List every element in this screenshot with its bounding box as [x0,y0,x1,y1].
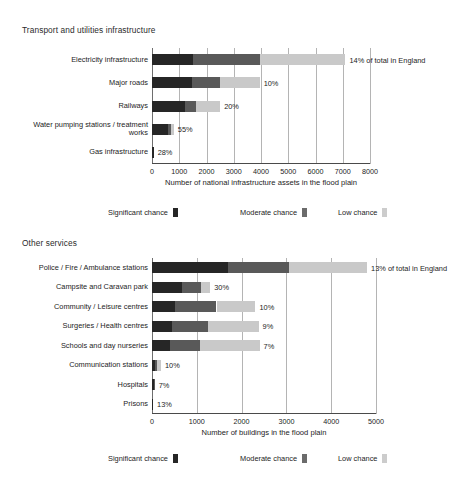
bar-segment-significant[interactable] [152,399,153,410]
x-axis-line [152,413,376,414]
bar-segment-low[interactable] [217,301,256,312]
bar-segment-moderate[interactable] [182,282,201,293]
legend-item[interactable]: Low chance [338,454,387,463]
bar-segment-low[interactable] [157,360,161,371]
bar-segment-moderate[interactable] [170,340,200,351]
bar-row[interactable] [152,77,370,88]
bar-segment-low[interactable] [220,77,260,88]
bar-value-annotation: 30% [214,283,229,292]
bar-segment-low[interactable] [196,101,220,112]
bar-segment-significant[interactable] [152,147,154,158]
category-label: Surgeries / Health centres [18,322,148,331]
legend-item[interactable]: Low chance [338,208,387,217]
plot-area-top [152,48,370,164]
category-label: Police / Fire / Ambulance stations [18,264,148,273]
bar-segment-moderate[interactable] [193,54,260,65]
bar-row[interactable] [152,262,376,273]
category-label: Major roads [18,79,148,88]
bar-segment-moderate[interactable] [228,262,288,273]
bar-segment-low[interactable] [289,262,367,273]
x-axis-line [152,163,370,164]
bar-segment-significant[interactable] [152,321,172,332]
category-label: Schools and day nurseries [18,342,148,351]
bar-segment-significant[interactable] [152,301,175,312]
bar-segment-moderate[interactable] [192,77,221,88]
bar-value-annotation: 9% [263,322,274,331]
other-services-chart-panel: Other services Police / Fire / Ambulance… [0,238,471,497]
legend-bottom: Significant chanceModerate chanceLow cha… [0,454,471,468]
bar-row[interactable] [152,101,370,112]
legend-swatch [382,208,387,217]
category-label: Community / Leisure centres [18,303,148,312]
legend-label: Significant chance [108,208,168,217]
bar-segment-low[interactable] [260,54,346,65]
category-label: Electricity infrastructure [18,56,148,65]
bar-value-annotation: 7% [159,381,170,390]
bar-value-annotation: 10% [165,361,180,370]
legend-swatch [382,454,387,463]
bar-segment-moderate[interactable] [185,101,197,112]
legend-item[interactable]: Significant chance [108,208,178,217]
transport-utilities-chart-panel: Transport and utilities infrastructure E… [0,0,471,240]
legend-swatch [302,454,307,463]
bar-segment-moderate[interactable] [154,379,155,390]
bar-segment-low[interactable] [171,124,174,135]
bar-value-annotation: 10% [259,303,274,312]
plot-area-bottom [152,258,376,414]
bar-segment-significant[interactable] [152,282,182,293]
chart-title-bottom: Other services [22,238,77,248]
category-label: Railways [18,102,148,111]
bar-value-annotation: 10% [264,79,279,88]
bar-row[interactable] [152,379,376,390]
category-label: Gas infrastructure [18,148,148,157]
bar-value-annotation: 20% [224,102,239,111]
legend-swatch [173,454,178,463]
x-tick-label: 3000 [266,417,306,426]
legend-item[interactable]: Significant chance [108,454,178,463]
legend-item[interactable]: Moderate chance [240,454,307,463]
x-tick-label: 0 [132,417,172,426]
category-label: Campsite and Caravan park [18,283,148,292]
legend-swatch [173,208,178,217]
category-label: Water pumping stations / treatment works [18,121,148,138]
bar-segment-moderate[interactable] [175,301,216,312]
bar-value-annotation: 13% [157,400,172,409]
bar-segment-low[interactable] [201,282,210,293]
bar-row[interactable] [152,282,376,293]
bar-segment-significant[interactable] [152,124,168,135]
legend-label: Low chance [338,454,377,463]
bar-segment-moderate[interactable] [172,321,208,332]
bar-value-annotation: 7% [264,342,275,351]
x-tick-label: 8000 [350,167,390,176]
bar-segment-significant[interactable] [152,54,193,65]
x-axis-title-top: Number of national infrastructure assets… [152,178,370,187]
bar-segment-significant[interactable] [152,101,185,112]
legend-label: Significant chance [108,454,168,463]
legend-item[interactable]: Moderate chance [240,208,307,217]
legend-label: Moderate chance [240,208,297,217]
bar-segment-low[interactable] [200,340,259,351]
bar-segment-significant[interactable] [152,77,192,88]
bar-segment-significant[interactable] [152,262,228,273]
category-label: Hospitals [18,381,148,390]
legend-label: Low chance [338,208,377,217]
bar-value-annotation: 13% of total in England [371,264,447,273]
bar-row[interactable] [152,360,376,371]
x-tick-label: 5000 [356,417,396,426]
bar-segment-significant[interactable] [152,340,170,351]
x-tick-label: 4000 [311,417,351,426]
bar-row[interactable] [152,54,370,65]
gridline [376,258,377,414]
gridline [370,48,371,164]
category-label: Communication stations [18,361,148,370]
bar-segment-low[interactable] [208,321,259,332]
legend-top: Significant chanceModerate chanceLow cha… [0,208,471,222]
legend-label: Moderate chance [240,454,297,463]
bar-row[interactable] [152,399,376,410]
x-axis-title-bottom: Number of buildings in the flood plain [152,428,376,437]
legend-swatch [302,208,307,217]
bar-row[interactable] [152,147,370,158]
bar-value-annotation: 55% [178,125,193,134]
chart-title-top: Transport and utilities infrastructure [22,25,156,35]
category-label: Prisons [18,400,148,409]
